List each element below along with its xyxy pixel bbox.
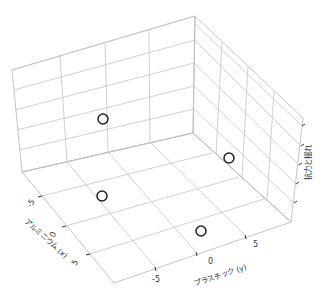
data-point[interactable] (98, 114, 108, 124)
floor-grid (22, 133, 291, 283)
data-point[interactable] (196, 226, 206, 236)
left-wall-grid (12, 16, 195, 172)
y-tick-label: -5 (152, 275, 160, 284)
x-axis-ticks (38, 196, 90, 255)
z-axis-label: 抗力と揺れ (303, 144, 313, 180)
data-point[interactable] (97, 191, 107, 201)
right-wall-grid (193, 16, 303, 222)
y-tick-label: 5 (253, 240, 258, 249)
x-tick-label: 5 (70, 258, 80, 267)
x-axis-label: アルミニウム (x) (23, 217, 70, 260)
scatter-3d-chart: -5 0 5 -5 0 5 アルミニウム (x) プラスチック (y) 抗力と揺… (0, 0, 330, 298)
y-axis-label: プラスチック (y) (193, 262, 248, 287)
y-tick-label: 0 (208, 257, 213, 266)
data-point[interactable] (224, 153, 234, 163)
x-tick-label: -5 (25, 198, 37, 209)
